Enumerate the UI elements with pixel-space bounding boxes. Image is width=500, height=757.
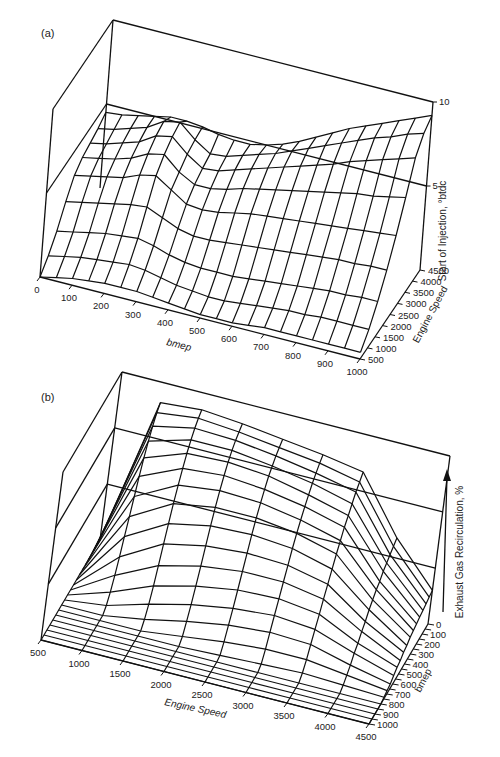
y-tick-mark <box>428 624 434 625</box>
left-wall-top-edge <box>53 20 113 109</box>
y-tick-label: 1000 <box>377 719 398 730</box>
x-tick-label: 700 <box>253 341 269 352</box>
y-tick-mark <box>368 348 373 349</box>
x-tick-label: 100 <box>61 292 77 303</box>
y-tick-mark <box>383 326 388 327</box>
panel-a-zlabel: Start of Injection, °btdc <box>437 181 448 282</box>
x-tick-label: 4000 <box>314 721 335 732</box>
y-tick-mark <box>420 270 425 271</box>
back-top-edge <box>113 20 433 102</box>
y-tick-mark <box>405 292 410 293</box>
y-tick-mark <box>375 337 380 338</box>
x-tick-mark <box>165 310 168 314</box>
surface-row-line <box>65 600 394 676</box>
x-tick-mark <box>261 334 264 338</box>
x-tick-label: 0 <box>34 284 39 295</box>
x-tick-mark <box>325 714 328 718</box>
surface-column-line <box>89 116 155 281</box>
surface-column-line <box>246 455 323 693</box>
x-tick-label: 900 <box>317 358 333 369</box>
x-tick-mark <box>133 302 136 306</box>
x-tick-label: 200 <box>93 300 109 311</box>
x-tick-mark <box>357 359 360 363</box>
x-tick-label: 300 <box>125 309 141 320</box>
z-tick-label: 10 <box>439 96 450 107</box>
x-tick-label: 2000 <box>150 679 171 690</box>
surface-row-line <box>68 586 398 667</box>
x-tick-label: 400 <box>157 317 173 328</box>
y-tick-label: 2500 <box>398 310 419 321</box>
panel-b-surface <box>41 403 432 724</box>
left-front-vertical-edge <box>41 472 63 640</box>
surface-column-line <box>361 115 433 352</box>
y-tick-mark <box>416 644 422 645</box>
surface-column-line <box>287 472 363 703</box>
left-wall-gridline <box>47 104 107 193</box>
y-tick-mark <box>387 694 393 695</box>
y-tick-label: 1000 <box>376 343 397 354</box>
y-tick-label: 3500 <box>413 287 434 298</box>
y-tick-mark <box>413 281 418 282</box>
x-tick-label: 1000 <box>68 658 89 669</box>
x-tick-label: 1000 <box>346 366 367 377</box>
x-tick-mark <box>37 277 40 281</box>
x-tick-mark <box>161 672 164 676</box>
x-tick-mark <box>325 351 328 355</box>
x-tick-mark <box>366 724 369 728</box>
x-tick-label: 500 <box>189 325 205 336</box>
x-tick-label: 800 <box>285 350 301 361</box>
y-tick-mark <box>422 634 428 635</box>
surface-column-line <box>281 129 350 332</box>
x-tick-label: 3500 <box>273 710 294 721</box>
figure: (a) 010020030040050060070080090010005001… <box>0 0 500 757</box>
y-tick-label: 2000 <box>391 321 412 332</box>
x-tick-mark <box>202 682 205 686</box>
x-tick-label: 600 <box>221 333 237 344</box>
z-arrow-head <box>443 469 451 481</box>
x-tick-mark <box>229 326 232 330</box>
panel-b-zlabel: Exhaust Gas Recirculation, % <box>454 486 465 618</box>
x-tick-mark <box>197 318 200 322</box>
back-wall-gridline <box>107 484 435 568</box>
x-tick-mark <box>293 343 296 347</box>
y-tick-mark <box>399 674 405 675</box>
x-tick-mark <box>69 285 72 289</box>
surface-column-line <box>329 121 399 344</box>
x-tick-label: 4500 <box>355 731 376 742</box>
x-tick-label: 500 <box>30 647 46 658</box>
y-tick-mark <box>390 315 395 316</box>
x-tick-mark <box>38 640 41 644</box>
y-tick-label: 1500 <box>383 332 404 343</box>
x-tick-label: 2500 <box>191 689 212 700</box>
surface-column-line <box>169 140 235 303</box>
surface-column-line <box>265 133 333 328</box>
x-tick-label: 3000 <box>232 700 253 711</box>
y-tick-label: 500 <box>368 354 384 365</box>
x-tick-mark <box>243 693 246 697</box>
panel-a-surface <box>40 112 432 352</box>
surface-row-line <box>71 566 401 661</box>
surface-column-line <box>40 112 106 277</box>
left-wall-top-edge <box>63 372 122 472</box>
x-tick-label: 1500 <box>109 668 130 679</box>
panel-a-xlabel: bmep <box>166 336 193 353</box>
panel-a-label: (a) <box>41 27 54 39</box>
surface-column-line <box>164 424 242 672</box>
y-tick-mark <box>404 664 410 665</box>
surface-column-line <box>297 126 366 336</box>
x-tick-mark <box>79 651 82 655</box>
y-tick-mark <box>375 714 381 715</box>
x-tick-mark <box>120 661 123 665</box>
y-tick-mark <box>398 303 403 304</box>
y-tick-mark <box>360 359 365 360</box>
x-tick-mark <box>101 293 104 297</box>
z-arrow <box>443 469 451 612</box>
panel-b-label: (b) <box>41 391 54 403</box>
y-tick-mark <box>393 684 399 685</box>
surface-row-line <box>59 610 387 691</box>
x-tick-mark <box>284 703 287 707</box>
surface-column-line <box>56 115 122 278</box>
y-tick-mark <box>410 654 416 655</box>
panel-b: (b) 500100015002000250030003500400045000… <box>30 372 465 742</box>
y-tick-mark <box>369 724 375 725</box>
